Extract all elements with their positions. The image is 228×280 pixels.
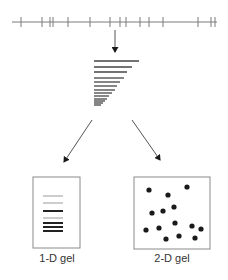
gel-1d-box — [33, 177, 80, 248]
gel-1d-label: 1-D gel — [39, 252, 74, 264]
protein-spot — [192, 235, 197, 240]
protein-spot — [172, 220, 177, 225]
gel-2d-label: 2-D gel — [154, 252, 189, 264]
gel-2d-box — [134, 177, 210, 249]
protein-spot — [184, 184, 189, 189]
protein-spot — [156, 225, 161, 230]
protein-spot — [189, 223, 194, 228]
gel-2d: 2-D gel — [134, 177, 210, 264]
gel-electrophoresis-diagram: 1-D gel 2-D gel — [0, 0, 228, 280]
restriction-map — [12, 17, 217, 27]
protein-spot — [146, 187, 151, 192]
protein-spot — [165, 192, 170, 197]
fragment-ladder — [94, 61, 139, 105]
protein-spot — [176, 233, 181, 238]
protein-spot — [198, 226, 203, 231]
protein-spot — [160, 208, 165, 213]
protein-spot — [163, 236, 168, 241]
gel-1d: 1-D gel — [33, 177, 80, 264]
arrow-to-2d-gel-icon — [132, 120, 160, 160]
protein-spot — [149, 210, 154, 215]
protein-spot — [143, 227, 148, 232]
protein-spot — [171, 204, 176, 209]
arrow-to-1d-gel-icon — [64, 120, 92, 162]
